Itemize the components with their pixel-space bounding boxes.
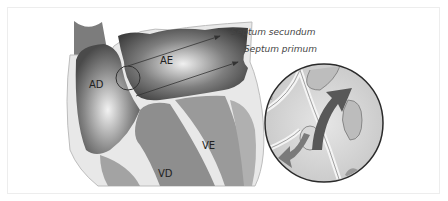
label-septum-primum: Septum primum <box>244 44 317 54</box>
foramen-ovale-inset <box>264 64 383 182</box>
heart <box>67 21 264 186</box>
label-septum-secundum: Septum secundum <box>231 27 316 37</box>
label-left-atrium: AE <box>160 55 173 66</box>
label-left-ventricle: VE <box>202 140 215 151</box>
label-right-ventricle: VD <box>158 168 173 179</box>
label-right-atrium: AD <box>89 79 104 90</box>
heart-diagram: AD AE VD VE Septum secundum Septum primu… <box>0 0 448 201</box>
